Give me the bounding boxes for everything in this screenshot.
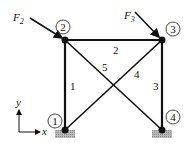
node-label-3: 3: [170, 23, 176, 35]
x-axis-label: x: [41, 125, 47, 137]
joint-1: [62, 127, 69, 134]
joint-2: [62, 37, 69, 44]
node-label-2: 2: [60, 21, 66, 33]
node-label-1: 1: [52, 115, 58, 127]
member-label-3: 3: [153, 80, 159, 92]
load-arrow-f3: [135, 12, 159, 37]
y-axis-label: y: [15, 96, 21, 108]
joint-3: [159, 37, 166, 44]
force-label-f3: F3: [123, 9, 135, 24]
member-label-1: 1: [70, 80, 76, 92]
member-label-5: 5: [102, 61, 108, 73]
joint-4: [159, 127, 166, 134]
truss-diagram: 2 3 1 4 1 2 3 4 5 F2 F3 y x: [0, 0, 195, 146]
member-label-2: 2: [113, 44, 119, 56]
force-label-f2: F2: [12, 11, 24, 26]
load-arrow-f2: [30, 18, 62, 38]
member-label-4: 4: [134, 68, 140, 80]
node-label-4: 4: [170, 111, 176, 123]
